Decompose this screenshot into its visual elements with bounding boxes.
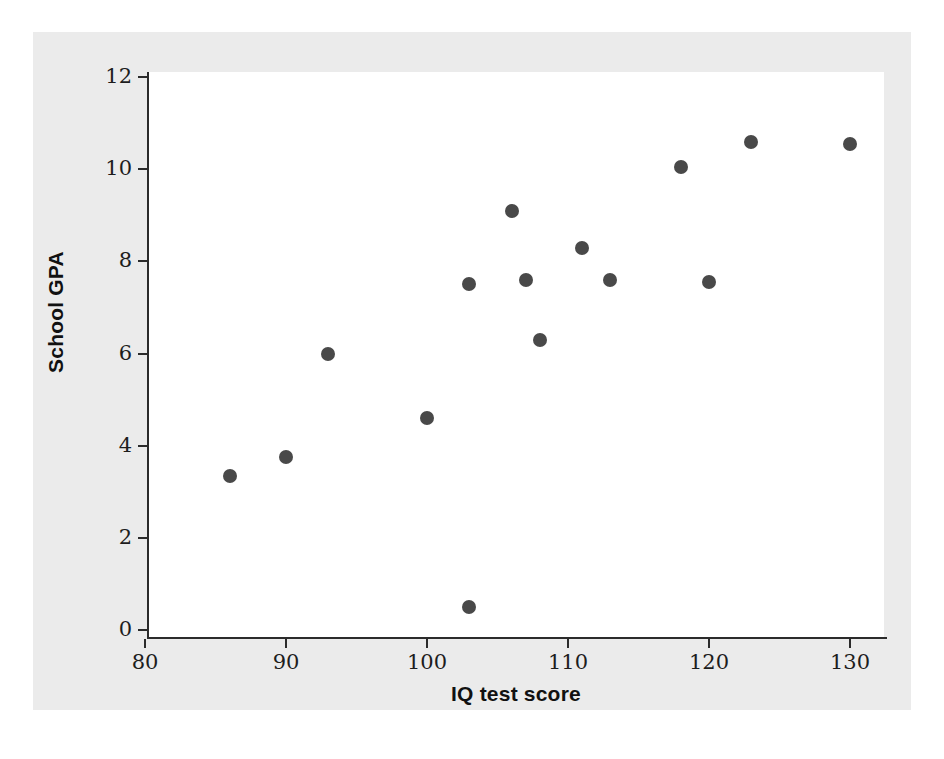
y-tick-label-6: 6 xyxy=(86,341,132,365)
y-tick-0 xyxy=(138,629,147,631)
y-tick-label-8: 8 xyxy=(86,248,132,272)
x-tick-80 xyxy=(144,639,146,648)
x-tick-label-100: 100 xyxy=(392,650,462,674)
data-point xyxy=(744,135,758,149)
x-tick-label-120: 120 xyxy=(674,650,744,674)
x-tick-130 xyxy=(849,639,851,648)
data-point xyxy=(603,273,617,287)
x-tick-90 xyxy=(285,639,287,648)
y-tick-label-4: 4 xyxy=(86,433,132,457)
x-tick-label-130: 130 xyxy=(815,650,885,674)
data-point xyxy=(519,273,533,287)
x-axis-line xyxy=(147,637,887,639)
y-tick-4 xyxy=(138,445,147,447)
y-tick-2 xyxy=(138,537,147,539)
x-tick-120 xyxy=(708,639,710,648)
y-tick-label-10: 10 xyxy=(86,156,132,180)
data-point xyxy=(505,204,519,218)
x-tick-label-110: 110 xyxy=(533,650,603,674)
y-tick-12 xyxy=(138,76,147,78)
figure-page: 024681012 8090100110120130 IQ test score… xyxy=(0,0,944,759)
data-point xyxy=(420,411,434,425)
y-tick-6 xyxy=(138,353,147,355)
data-point xyxy=(321,347,335,361)
x-tick-label-90: 90 xyxy=(251,650,321,674)
y-tick-label-2: 2 xyxy=(86,525,132,549)
y-tick-label-0: 0 xyxy=(86,617,132,641)
plot-area xyxy=(148,72,884,638)
data-point xyxy=(533,333,547,347)
y-axis-title: School GPA xyxy=(44,212,68,412)
data-point xyxy=(702,275,716,289)
x-tick-110 xyxy=(567,639,569,648)
data-point xyxy=(575,241,589,255)
x-tick-label-80: 80 xyxy=(110,650,180,674)
y-tick-10 xyxy=(138,168,147,170)
data-point xyxy=(674,160,688,174)
y-axis-line xyxy=(147,72,149,639)
x-tick-100 xyxy=(426,639,428,648)
y-tick-8 xyxy=(138,260,147,262)
x-axis-title: IQ test score xyxy=(148,682,884,706)
y-tick-label-12: 12 xyxy=(86,64,132,88)
data-point xyxy=(223,469,237,483)
data-point xyxy=(843,137,857,151)
